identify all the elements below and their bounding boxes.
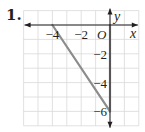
coordinate-plane: O x y −4−2−2−4−6 — [0, 0, 145, 132]
origin-label: O — [97, 27, 107, 42]
y-tick-label: −6 — [93, 104, 107, 119]
y-tick-label: −2 — [93, 47, 107, 62]
y-tick-label: −4 — [93, 76, 107, 91]
x-tick-label: −2 — [74, 27, 88, 42]
y-axis-down-arrow-icon — [108, 122, 113, 128]
x-axis-label: x — [129, 26, 137, 41]
x-tick-label: −4 — [45, 27, 59, 42]
y-axis-up-arrow-icon — [108, 9, 113, 15]
x-axis-left-arrow-icon — [25, 23, 31, 28]
y-axis-label: y — [112, 9, 121, 24]
